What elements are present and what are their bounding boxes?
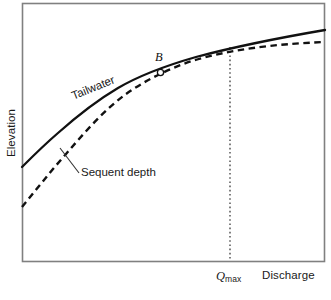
point-b-marker	[157, 69, 163, 75]
plot-frame	[23, 4, 325, 262]
x-axis-label: Discharge	[262, 269, 315, 281]
tailwater-curve	[22, 30, 325, 167]
sequent-depth-curve-label: Sequent depth	[81, 166, 156, 178]
chart-plot-area	[0, 0, 331, 300]
y-axis-label: Elevation	[5, 109, 17, 157]
qmax-symbol: Q	[216, 269, 225, 283]
point-b-label: B	[155, 50, 163, 65]
sequent-depth-leader-line	[60, 148, 79, 173]
chart-figure: Elevation Discharge Qmax Tailwater Seque…	[0, 0, 331, 300]
qmax-tick-label: Qmax	[216, 269, 241, 284]
qmax-subscript: max	[225, 274, 241, 284]
